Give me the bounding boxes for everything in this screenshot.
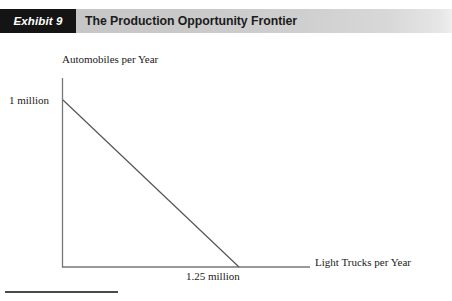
footer-divider-rule (5, 291, 118, 293)
x-axis-title: Light Trucks per Year (315, 256, 411, 268)
frontier-line (63, 100, 239, 267)
x-intercept-tick-label: 1.25 million (186, 270, 240, 282)
y-intercept-tick-label: 1 million (9, 94, 49, 106)
production-opportunity-frontier-chart: Automobiles per Year Light Trucks per Ye… (0, 0, 452, 301)
y-axis-title: Automobiles per Year (62, 53, 158, 65)
